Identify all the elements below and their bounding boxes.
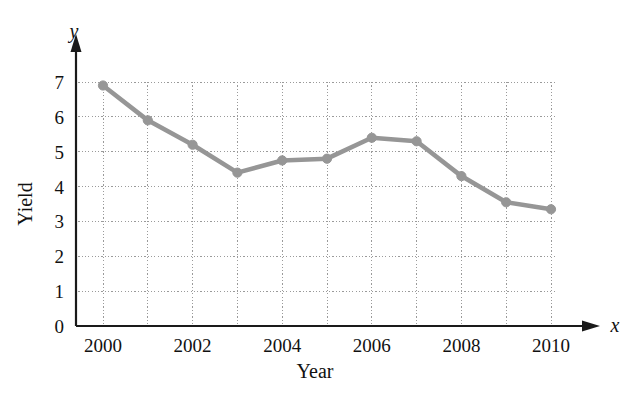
data-point-marker	[233, 168, 242, 177]
x-axis-arrowhead	[582, 321, 600, 332]
x-tick-label: 2004	[263, 335, 302, 356]
data-point-marker	[367, 133, 376, 142]
y-tick-label: 0	[55, 316, 65, 337]
axis-labels: yx01234567200020022004200620082010YearYi…	[14, 20, 620, 382]
y-tick-label: 6	[55, 107, 65, 128]
y-axis-variable-label: y	[68, 20, 79, 43]
data-point-marker	[278, 156, 287, 165]
data-point-marker	[457, 172, 466, 181]
data-point-marker	[188, 140, 197, 149]
data-point-marker	[322, 154, 331, 163]
x-axis-title: Year	[297, 360, 334, 382]
y-tick-label: 2	[55, 246, 65, 267]
y-tick-label: 5	[55, 142, 65, 163]
y-tick-label: 4	[55, 177, 65, 198]
x-tick-label: 2010	[532, 335, 570, 356]
y-tick-label: 1	[55, 281, 65, 302]
data-point-marker	[502, 198, 511, 207]
data-line	[103, 85, 551, 209]
y-tick-label: 3	[55, 211, 65, 232]
x-tick-label: 2002	[174, 335, 212, 356]
chart-canvas: yx01234567200020022004200620082010YearYi…	[0, 0, 631, 405]
data-point-marker	[546, 205, 555, 214]
data-series-yield	[98, 81, 555, 214]
y-tick-label: 7	[55, 72, 65, 93]
yield-vs-year-chart: yx01234567200020022004200620082010YearYi…	[0, 0, 631, 405]
data-point-marker	[98, 81, 107, 90]
x-tick-label: 2006	[353, 335, 391, 356]
x-axis-variable-label: x	[610, 314, 620, 336]
data-point-marker	[412, 137, 421, 146]
x-tick-label: 2008	[442, 335, 480, 356]
x-tick-label: 2000	[84, 335, 122, 356]
axes	[71, 34, 601, 332]
data-point-marker	[143, 116, 152, 125]
y-axis-title: Yield	[14, 182, 36, 225]
